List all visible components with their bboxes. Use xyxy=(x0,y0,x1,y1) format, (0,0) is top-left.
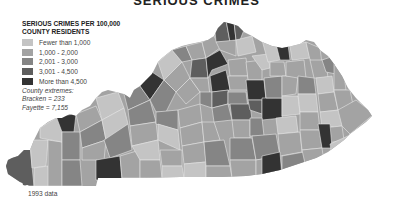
county xyxy=(30,140,48,168)
county xyxy=(62,132,80,160)
county xyxy=(34,166,50,186)
county xyxy=(282,96,300,116)
county xyxy=(282,76,298,96)
county xyxy=(190,58,208,78)
county xyxy=(162,166,184,178)
county xyxy=(160,150,182,166)
county xyxy=(182,142,206,164)
county xyxy=(96,156,122,180)
county xyxy=(264,76,282,98)
county xyxy=(262,98,282,120)
county xyxy=(62,160,82,186)
county xyxy=(228,58,248,76)
county xyxy=(232,120,250,138)
county xyxy=(270,62,286,76)
county xyxy=(230,104,252,120)
county xyxy=(230,138,256,160)
county xyxy=(334,62,346,90)
kentucky-county-map xyxy=(0,0,393,203)
county xyxy=(302,148,324,168)
county xyxy=(278,132,302,156)
county xyxy=(48,140,62,186)
footnote: 1993 data xyxy=(28,190,57,197)
county xyxy=(298,94,318,112)
county xyxy=(282,152,306,176)
county xyxy=(298,76,316,94)
county xyxy=(184,162,206,178)
counties xyxy=(0,0,393,203)
county xyxy=(300,112,320,130)
kentucky-bend xyxy=(23,181,28,186)
county xyxy=(230,160,256,178)
county xyxy=(262,152,282,178)
county xyxy=(300,130,322,150)
county xyxy=(276,116,298,134)
county xyxy=(316,76,334,94)
county xyxy=(250,118,264,136)
county xyxy=(0,146,34,186)
county xyxy=(246,80,266,100)
county xyxy=(286,60,306,78)
county xyxy=(206,166,232,178)
county xyxy=(140,160,162,178)
